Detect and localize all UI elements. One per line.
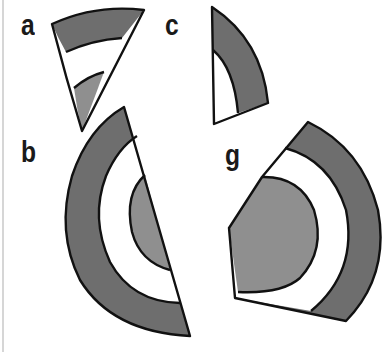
piece-a [52,9,144,131]
piece-g [229,122,381,321]
piece-c [212,7,268,124]
piece-b [66,107,190,336]
figure-canvas: a c b g [0,0,388,352]
pieces-diagram [0,0,388,352]
